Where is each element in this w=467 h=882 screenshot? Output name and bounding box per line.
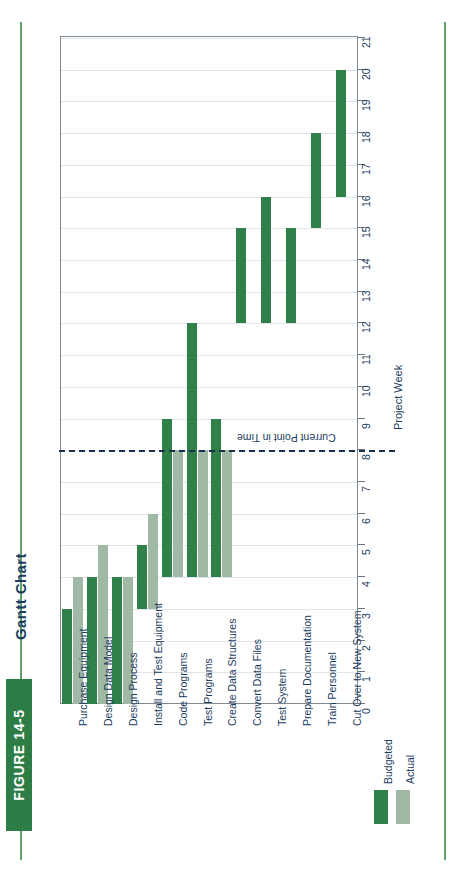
axis-tick-label: 15: [360, 227, 372, 239]
axis-tick-label: 21: [360, 36, 372, 48]
task-label: Code Programs: [177, 652, 189, 726]
axis-tick-label: 13: [360, 290, 372, 302]
axis-tick: [358, 449, 365, 450]
gridline: [61, 260, 357, 261]
gantt-bar: [222, 450, 232, 577]
task-label: Cut Over to New System: [351, 610, 363, 726]
gridline: [61, 323, 357, 324]
axis-tick-label: 9: [360, 423, 372, 429]
legend-label: Actual: [404, 755, 416, 784]
axis-tick-label: 5: [360, 550, 372, 556]
gridline: [61, 482, 357, 483]
task-label: Purchase Equipment: [77, 629, 89, 726]
gantt-bar: [336, 70, 346, 197]
task-label: Prepare Documentation: [301, 615, 313, 726]
gantt-bar: [311, 133, 321, 228]
axis-tick: [358, 513, 365, 514]
task-label: Create Data Structures: [226, 619, 238, 726]
axis-tick-label: 12: [360, 322, 372, 334]
axis-tick-label: 17: [360, 163, 372, 175]
current-point-in-time-line: [59, 450, 395, 452]
task-label: Design Process: [127, 652, 139, 726]
gantt-bar: [173, 450, 183, 577]
gantt-bar: [148, 514, 158, 609]
chart-plot-area: Current Point in Time: [60, 36, 358, 704]
gantt-bar: [62, 609, 72, 704]
axis-tick-label: 7: [360, 486, 372, 492]
gridline: [61, 101, 357, 102]
axis-title-project-week: Project Week: [392, 365, 404, 430]
gridline: [61, 355, 357, 356]
axis-tick-label: 19: [360, 100, 372, 112]
axis-tick: [358, 418, 365, 419]
axis-tick: [358, 481, 365, 482]
gantt-bar: [137, 545, 147, 608]
axis-tick-label: 10: [360, 385, 372, 397]
axis-tick-label: 6: [360, 518, 372, 524]
gridline: [61, 387, 357, 388]
task-label: Design Data Model: [102, 637, 114, 726]
current-point-in-time-label: Current Point in Time: [237, 432, 336, 444]
gridline: [61, 419, 357, 420]
gridline: [61, 292, 357, 293]
task-label: Test System: [276, 669, 288, 726]
axis-tick: [358, 608, 365, 609]
axis-tick-label: 16: [360, 195, 372, 207]
gantt-bar: [286, 228, 296, 323]
legend-label: Budgeted: [382, 739, 394, 784]
task-label: Install and Test Equipment: [152, 603, 164, 726]
task-label: Convert Data Files: [251, 639, 263, 726]
axis-tick-label: 18: [360, 131, 372, 143]
gantt-bar: [211, 419, 221, 578]
gridline: [61, 514, 357, 515]
axis-tick: [358, 544, 365, 545]
figure-title: Gantt Chart: [10, 490, 30, 640]
axis-tick-label: 20: [360, 68, 372, 80]
axis-tick: [358, 576, 365, 577]
axis-tick-label: 11: [360, 354, 372, 365]
gridline: [61, 38, 357, 39]
gantt-bar: [198, 450, 208, 577]
gantt-bar: [261, 197, 271, 324]
axis-tick-label: 4: [360, 581, 372, 587]
gantt-bar: [162, 419, 172, 578]
axis-tick-label: 8: [360, 454, 372, 460]
figure-container: FIGURE 14-5 Gantt Chart Current Point in…: [0, 0, 467, 882]
task-label: Test Programs: [202, 658, 214, 726]
legend-swatch: [374, 790, 388, 824]
legend-swatch: [396, 790, 410, 824]
gantt-bar: [236, 228, 246, 323]
gridline: [61, 228, 357, 229]
task-label: Train Personnel: [326, 652, 338, 726]
gridline: [61, 70, 357, 71]
figure-number-banner: FIGURE 14-5: [6, 679, 32, 831]
axis-tick-label: 14: [360, 258, 372, 270]
